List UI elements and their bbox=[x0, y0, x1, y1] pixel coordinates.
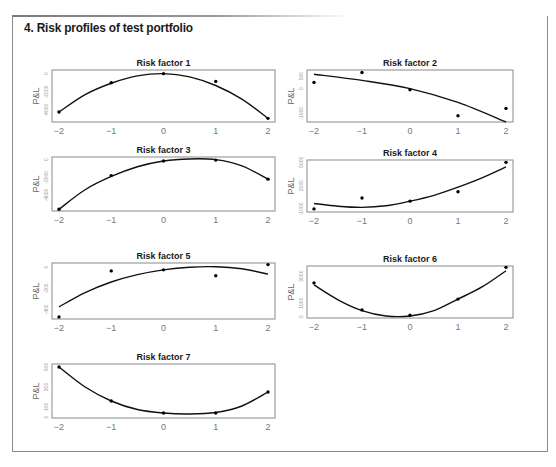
y-tick-label: -2000 bbox=[43, 171, 49, 184]
x-tick-label: 0 bbox=[161, 422, 166, 432]
plot-area bbox=[52, 70, 275, 122]
y-axis-label: P&L bbox=[31, 282, 41, 299]
x-tick-label: −1 bbox=[106, 323, 116, 333]
y-tick-label: 0 bbox=[43, 415, 49, 418]
chart-title: Risk factor 2 bbox=[383, 58, 437, 68]
x-tick-label: 1 bbox=[455, 216, 460, 226]
chart-title: Risk factor 7 bbox=[136, 352, 190, 362]
x-tick-label: 2 bbox=[265, 323, 270, 333]
data-point bbox=[312, 81, 315, 84]
x-tick-label: 0 bbox=[407, 216, 412, 226]
x-tick-label: 1 bbox=[213, 126, 218, 136]
y-tick-label: -1000 bbox=[298, 107, 304, 120]
y-tick-label: 5000 bbox=[298, 157, 304, 168]
x-tick-label: −2 bbox=[309, 126, 319, 136]
y-tick-label: 3000 bbox=[298, 270, 304, 281]
fit-curve bbox=[314, 271, 506, 317]
data-point bbox=[266, 177, 269, 180]
plot-area bbox=[307, 160, 513, 212]
data-point bbox=[57, 110, 60, 113]
fit-curve bbox=[59, 74, 268, 119]
chart-risk-factor-5: Risk factor 5−2−10120-200-400P&L bbox=[31, 251, 275, 333]
x-tick-label: −1 bbox=[357, 126, 367, 136]
y-tick-label: 500 bbox=[298, 72, 304, 81]
data-point bbox=[360, 196, 363, 199]
x-tick-label: −1 bbox=[106, 215, 116, 225]
fit-curve bbox=[59, 367, 268, 414]
risk-profile-charts: Risk factor 1−2−10120-2000-4000P&LRisk f… bbox=[0, 0, 556, 467]
data-point bbox=[266, 263, 269, 266]
x-tick-label: −1 bbox=[106, 126, 116, 136]
y-tick-label: 0 bbox=[43, 158, 49, 161]
x-tick-label: 2 bbox=[265, 126, 270, 136]
chart-title: Risk factor 3 bbox=[136, 145, 190, 155]
chart-risk-factor-2: Risk factor 2−2−10125000-1000P&L bbox=[286, 58, 513, 136]
data-point bbox=[214, 80, 217, 83]
x-tick-label: 0 bbox=[161, 126, 166, 136]
data-point bbox=[456, 297, 459, 300]
data-point bbox=[408, 88, 411, 91]
x-tick-label: 0 bbox=[407, 126, 412, 136]
x-tick-label: −1 bbox=[357, 322, 367, 332]
y-axis-label: P&L bbox=[31, 382, 41, 399]
fit-curve bbox=[314, 74, 506, 122]
data-point bbox=[408, 314, 411, 317]
data-point bbox=[504, 161, 507, 164]
data-point bbox=[504, 266, 507, 269]
chart-title: Risk factor 5 bbox=[136, 251, 190, 261]
data-point bbox=[360, 71, 363, 74]
data-point bbox=[312, 207, 315, 210]
x-tick-label: −2 bbox=[54, 126, 64, 136]
data-point bbox=[57, 365, 60, 368]
x-tick-label: 1 bbox=[455, 322, 460, 332]
y-axis-label: P&L bbox=[286, 177, 296, 194]
chart-title: Risk factor 4 bbox=[383, 148, 437, 158]
y-tick-label: 0 bbox=[43, 266, 49, 269]
data-point bbox=[57, 315, 60, 318]
y-axis-label: P&L bbox=[31, 87, 41, 104]
data-point bbox=[110, 81, 113, 84]
chart-title: Risk factor 6 bbox=[383, 254, 437, 264]
y-axis-label: P&L bbox=[286, 87, 296, 104]
x-tick-label: 2 bbox=[503, 322, 508, 332]
x-tick-label: 2 bbox=[265, 422, 270, 432]
data-point bbox=[162, 268, 165, 271]
x-tick-label: 1 bbox=[213, 323, 218, 333]
x-tick-label: 1 bbox=[455, 126, 460, 136]
chart-risk-factor-3: Risk factor 3−2−10120-2000-4000P&L bbox=[31, 145, 275, 225]
data-point bbox=[266, 117, 269, 120]
y-tick-label: 0 bbox=[298, 87, 304, 90]
data-point bbox=[110, 174, 113, 177]
x-tick-label: 1 bbox=[213, 422, 218, 432]
y-tick-label: -1000 bbox=[298, 202, 304, 215]
fit-curve bbox=[59, 267, 268, 307]
data-point bbox=[110, 269, 113, 272]
x-tick-label: −1 bbox=[106, 422, 116, 432]
data-point bbox=[456, 190, 459, 193]
chart-risk-factor-6: Risk factor 6−2−1012010003000P&L bbox=[286, 254, 513, 332]
data-point bbox=[214, 158, 217, 161]
y-tick-label: -200 bbox=[43, 283, 49, 293]
chart-risk-factor-7: Risk factor 7−2−10120100300500P&L bbox=[31, 352, 275, 432]
y-tick-label: 1000 bbox=[298, 297, 304, 308]
data-point bbox=[57, 208, 60, 211]
fit-curve bbox=[59, 159, 268, 209]
data-point bbox=[162, 159, 165, 162]
y-tick-label: 500 bbox=[43, 363, 49, 372]
x-tick-label: 0 bbox=[161, 215, 166, 225]
y-tick-label: -400 bbox=[43, 304, 49, 314]
y-tick-label: 300 bbox=[43, 383, 49, 392]
y-tick-label: -4000 bbox=[43, 104, 49, 117]
plot-area bbox=[307, 266, 513, 318]
data-point bbox=[360, 308, 363, 311]
data-point bbox=[214, 411, 217, 414]
x-tick-label: −2 bbox=[309, 216, 319, 226]
x-tick-label: −1 bbox=[357, 216, 367, 226]
x-tick-label: 0 bbox=[161, 323, 166, 333]
chart-risk-factor-1: Risk factor 1−2−10120-2000-4000P&L bbox=[31, 58, 275, 136]
plot-area bbox=[52, 364, 275, 418]
chart-title: Risk factor 1 bbox=[136, 58, 190, 68]
y-tick-label: 2000 bbox=[298, 180, 304, 191]
data-point bbox=[214, 274, 217, 277]
x-tick-label: −2 bbox=[54, 215, 64, 225]
